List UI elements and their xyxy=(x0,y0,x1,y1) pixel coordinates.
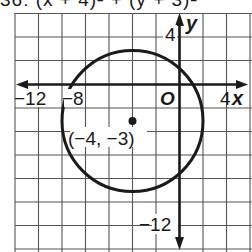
center-point-label: (−4, −3) xyxy=(68,128,135,149)
x-tick-label-neg8: −8 xyxy=(62,88,84,109)
y-axis-up-arrow-icon xyxy=(175,13,184,26)
x-axis-label: x xyxy=(231,87,244,109)
coordinate-plane: −12 −8 4 x O 4 y −12 (−4, −3) xyxy=(0,0,252,252)
origin-label: O xyxy=(160,88,175,109)
y-axis-down-arrow-icon xyxy=(175,237,184,250)
y-tick-label-neg12: −12 xyxy=(139,214,171,235)
x-tick-label-neg12: −12 xyxy=(14,88,46,109)
center-point xyxy=(129,117,137,125)
y-tick-label-4: 4 xyxy=(165,24,176,45)
x-tick-label-4: 4 xyxy=(220,88,231,109)
y-axis-label: y xyxy=(185,12,198,34)
